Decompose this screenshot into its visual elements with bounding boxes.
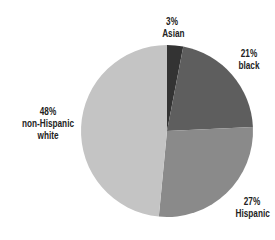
label-white-pct: 48% <box>15 106 81 118</box>
label-asian-name: Asian <box>162 28 182 40</box>
label-black: 21% black <box>237 48 262 72</box>
label-black-pct: 21% <box>237 48 262 60</box>
label-black-name: black <box>237 60 262 72</box>
label-white: 48% non-Hispanic white <box>15 106 81 142</box>
label-hispanic-pct: 27% <box>236 196 269 208</box>
label-hispanic: 27% Hispanic <box>236 196 269 220</box>
pie-slice-non-hispanic-white <box>81 45 167 217</box>
label-white-name: non-Hispanic white <box>15 118 81 142</box>
label-asian-pct: 3% <box>162 16 182 28</box>
label-asian: 3% Asian <box>162 16 182 40</box>
label-hispanic-name: Hispanic <box>236 208 269 220</box>
